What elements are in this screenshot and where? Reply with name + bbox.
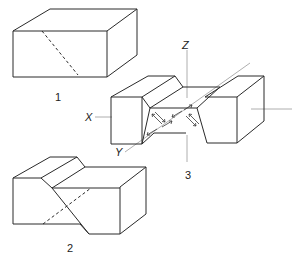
label-2: 2 [67,242,73,254]
block-3-axes [95,50,292,162]
label-1: 1 [55,91,61,103]
x-axis-label: X [84,111,93,123]
y-axis-label: Y [115,146,123,158]
z-axis-label: Z [181,39,190,51]
arrow-icon [155,112,165,122]
block-1 [13,9,137,77]
label-3: 3 [185,169,191,181]
arrow-icon [172,111,182,117]
dashed-plane-line [43,188,91,224]
arrow-icon [189,114,199,124]
shear-arrows [147,105,199,135]
arrow-icon [152,114,162,124]
block-2 [13,157,146,234]
block-3 [111,76,264,144]
arrow-icon [186,116,196,126]
dashed-plane-line [42,31,78,75]
arrow-icon [147,129,157,135]
diagram-canvas: 1 Z X Y [0,0,293,261]
